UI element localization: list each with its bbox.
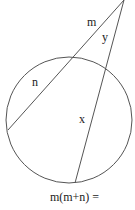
- secant-diagram: m y n x: [0, 0, 135, 210]
- label-x: x: [79, 112, 85, 126]
- equation-text: m(m+n) =: [0, 190, 135, 205]
- circle: [6, 57, 132, 183]
- label-m: m: [87, 15, 97, 29]
- label-y: y: [102, 30, 108, 44]
- label-n: n: [32, 75, 38, 89]
